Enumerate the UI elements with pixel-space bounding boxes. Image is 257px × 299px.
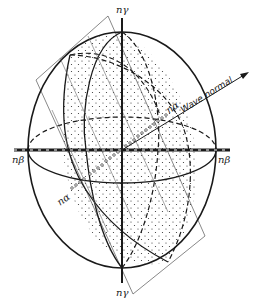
label-n-beta-right: nβ — [218, 154, 230, 165]
label-wave-normal: Wave normal — [179, 75, 235, 115]
indicatrix-diagram: nγ nγ nβ nβ nα nα Wave normal — [0, 0, 257, 299]
label-n-beta-left: nβ — [12, 154, 24, 165]
label-n-gamma-top: nγ — [116, 4, 128, 15]
label-n-alpha-lower: nα — [55, 191, 72, 208]
label-n-gamma-bottom: nγ — [116, 287, 128, 298]
section-plane-fill — [62, 32, 197, 264]
wave-normal-arrowhead — [240, 72, 249, 79]
